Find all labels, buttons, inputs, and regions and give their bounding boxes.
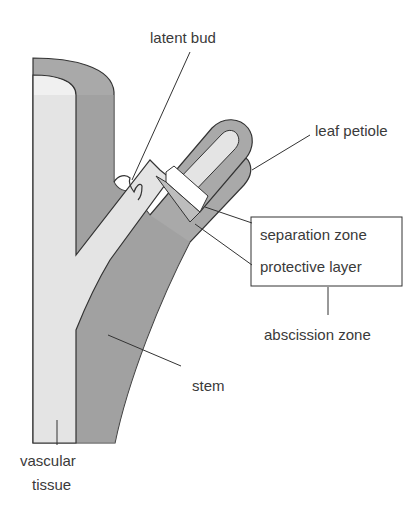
label-stem: stem (192, 377, 225, 394)
abscission-diagram: latent bud leaf petiole separation zone … (0, 0, 420, 509)
label-vascular: vascular (20, 452, 76, 469)
label-protective-layer: protective layer (260, 258, 362, 275)
label-leaf-petiole: leaf petiole (315, 122, 388, 139)
label-latent-bud: latent bud (150, 29, 216, 46)
label-separation-zone: separation zone (260, 226, 367, 243)
label-abscission-zone: abscission zone (264, 326, 371, 343)
label-tissue: tissue (32, 476, 71, 493)
